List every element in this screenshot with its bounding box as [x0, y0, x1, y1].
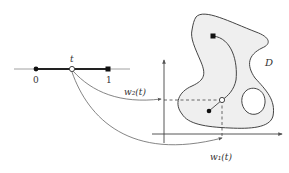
parameter-point	[69, 66, 74, 71]
interval-start-dot	[34, 67, 39, 72]
path-end-square	[211, 34, 216, 39]
interval-end-square	[106, 67, 111, 72]
parameter-label-t: t	[70, 54, 74, 64]
interval-label-1: 1	[106, 75, 112, 85]
diagram: D 0 1 t w₂(t) w₁(t)	[0, 0, 289, 173]
domain-label: D	[264, 57, 273, 68]
start-dot	[207, 109, 212, 114]
w1-label: w₁(t)	[210, 152, 232, 162]
domain-region	[178, 14, 274, 128]
image-point-open-circle	[219, 97, 224, 102]
w2-label: w₂(t)	[124, 87, 146, 97]
w2-map-arrow	[73, 71, 161, 100]
interval-label-0: 0	[33, 75, 39, 85]
